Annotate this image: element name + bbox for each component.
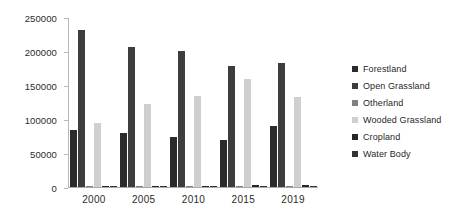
legend-swatch-icon	[352, 66, 358, 72]
bar-chart: Hectares 250000200000150000100000500000 …	[0, 0, 461, 211]
legend-swatch-icon	[352, 117, 358, 123]
legend-item[interactable]: Open Grassland	[352, 77, 460, 94]
bar	[202, 186, 209, 187]
bar	[144, 104, 151, 187]
bar	[228, 66, 235, 187]
bar	[252, 185, 259, 187]
bar-group: 2010	[169, 18, 219, 187]
legend-swatch-icon	[352, 100, 358, 106]
legend-item[interactable]: Wooded Grassland	[352, 111, 460, 128]
bar-set	[170, 18, 217, 187]
legend-item[interactable]: Cropland	[352, 128, 460, 145]
bar	[236, 186, 243, 187]
bar	[302, 185, 309, 187]
bar	[286, 186, 293, 187]
x-axis-label: 2019	[268, 194, 318, 205]
legend-label: Forestland	[363, 64, 407, 74]
bar-group: 2015	[218, 18, 268, 187]
y-tick: 50000	[64, 154, 68, 155]
y-tick: 150000	[64, 86, 68, 87]
bar	[310, 186, 317, 187]
bar-set	[270, 18, 317, 187]
bar-set	[120, 18, 167, 187]
plot-area: 250000200000150000100000500000 200020052…	[68, 18, 318, 188]
bar	[294, 97, 301, 187]
legend-label: Cropland	[363, 132, 400, 142]
legend-item[interactable]: Water Body	[352, 145, 460, 162]
bar	[170, 137, 177, 187]
legend-label: Water Body	[363, 149, 411, 159]
bar	[178, 51, 185, 187]
y-tick-label: 250000	[25, 13, 57, 24]
bar	[220, 140, 227, 187]
y-tick: 200000	[64, 52, 68, 53]
bar	[70, 130, 77, 187]
bar-groups: 20002005201020152019	[69, 18, 318, 187]
bar	[102, 186, 109, 187]
bar	[270, 126, 277, 187]
y-tick: 100000	[64, 120, 68, 121]
bar	[110, 186, 117, 187]
y-tick-label: 200000	[25, 47, 57, 58]
bar	[210, 186, 217, 187]
x-axis-label: 2000	[69, 194, 119, 205]
bar-set	[220, 18, 267, 187]
bar	[260, 186, 267, 187]
bar	[120, 133, 127, 187]
bar	[128, 47, 135, 187]
bar-group: 2005	[119, 18, 169, 187]
bar	[194, 96, 201, 187]
legend-item[interactable]: Otherland	[352, 94, 460, 111]
bar	[78, 30, 85, 187]
legend-swatch-icon	[352, 151, 358, 157]
legend-item[interactable]: Forestland	[352, 60, 460, 77]
bar	[278, 63, 285, 187]
legend-label: Wooded Grassland	[363, 115, 441, 125]
bar	[94, 123, 101, 187]
chart-legend: ForestlandOpen GrasslandOtherlandWooded …	[352, 60, 460, 162]
bar-set	[70, 18, 117, 187]
bar	[160, 186, 167, 187]
legend-label: Open Grassland	[363, 81, 430, 91]
x-axis-label: 2010	[169, 194, 219, 205]
legend-swatch-icon	[352, 134, 358, 140]
y-tick-label: 50000	[30, 149, 57, 160]
bar	[86, 186, 93, 187]
bar-group: 2019	[268, 18, 318, 187]
legend-label: Otherland	[363, 98, 403, 108]
bar-group: 2000	[69, 18, 119, 187]
legend-swatch-icon	[352, 83, 358, 89]
bar	[136, 186, 143, 187]
x-axis-line	[68, 187, 318, 188]
x-axis-label: 2015	[218, 194, 268, 205]
y-tick: 0	[64, 188, 68, 189]
x-axis-label: 2005	[119, 194, 169, 205]
bar	[244, 79, 251, 187]
y-tick: 250000	[64, 18, 68, 19]
y-tick-label: 150000	[25, 81, 57, 92]
y-tick-label: 0	[52, 183, 57, 194]
y-tick-label: 100000	[25, 115, 57, 126]
bar	[152, 186, 159, 187]
bar	[186, 186, 193, 187]
